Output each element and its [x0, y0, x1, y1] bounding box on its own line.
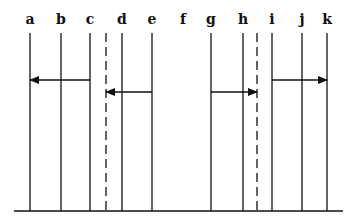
- label-e: e: [148, 11, 157, 27]
- label-i: i: [269, 11, 274, 27]
- vertical-lines: [30, 33, 327, 211]
- vertical-lines-diagram: abcdefghijk: [0, 0, 357, 219]
- arrows: [30, 80, 327, 92]
- line-labels: abcdefghijk: [25, 11, 332, 27]
- label-c: c: [86, 11, 95, 27]
- label-h: h: [238, 11, 248, 27]
- label-k: k: [322, 11, 332, 27]
- label-d: d: [117, 11, 127, 27]
- label-a: a: [25, 11, 34, 27]
- label-f: f: [180, 11, 187, 27]
- label-j: j: [297, 11, 304, 27]
- label-g: g: [206, 11, 216, 27]
- label-b: b: [56, 11, 66, 27]
